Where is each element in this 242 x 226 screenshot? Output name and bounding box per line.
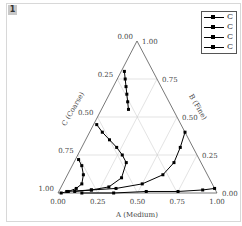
data-series: [60, 70, 216, 195]
line-marker-icon: [204, 47, 224, 48]
legend-item: C: [202, 32, 236, 42]
svg-text:0.50: 0.50: [130, 198, 146, 206]
line-marker-icon: [204, 17, 224, 18]
line-marker-icon: [204, 27, 224, 28]
svg-text:0.25: 0.25: [98, 71, 114, 79]
svg-text:0.25: 0.25: [202, 152, 218, 160]
legend-item: C: [202, 42, 236, 52]
legend-item: C: [202, 22, 236, 32]
svg-text:0.00: 0.00: [117, 33, 133, 41]
grid-lines: [78, 79, 197, 193]
svg-text:0.75: 0.75: [58, 147, 74, 155]
svg-text:0.50: 0.50: [78, 109, 94, 117]
svg-text:0.00: 0.00: [50, 198, 66, 206]
line-marker-icon: [204, 37, 224, 38]
svg-text:0.25: 0.25: [90, 198, 106, 206]
svg-text:1.00: 1.00: [38, 185, 54, 193]
svg-text:1.00: 1.00: [142, 38, 158, 46]
svg-text:0.75: 0.75: [169, 198, 185, 206]
svg-text:1.00: 1.00: [209, 198, 225, 206]
svg-text:0.75: 0.75: [162, 76, 178, 84]
svg-text:0.50: 0.50: [182, 114, 198, 122]
legend: C C C C: [201, 11, 237, 54]
a-axis-label: A (Medium): [115, 211, 158, 219]
svg-text:0.00: 0.00: [222, 190, 238, 198]
legend-item: C: [202, 12, 236, 22]
